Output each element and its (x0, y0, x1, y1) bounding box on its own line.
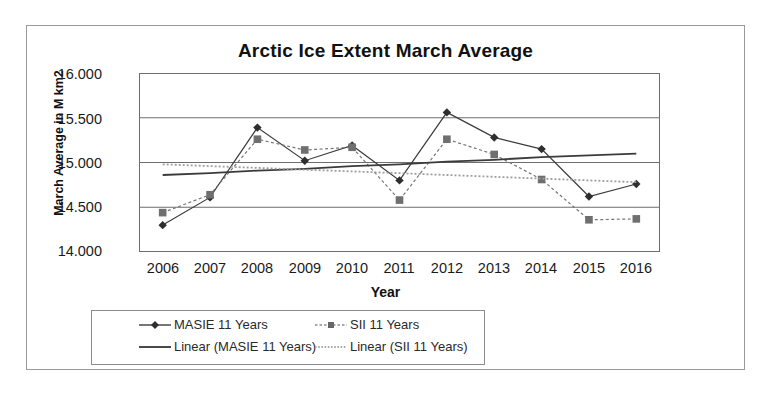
y-tick-label: 15.500 (22, 111, 102, 127)
legend-label-sii: SII 11 Years (350, 318, 419, 331)
legend-item-sii[interactable]: SII 11 Years (314, 318, 419, 331)
data-point-marker (159, 209, 167, 217)
chart-frame: Arctic Ice Extent March Average March Av… (26, 25, 745, 370)
series-line-0 (163, 112, 637, 225)
chart-legend: MASIE 11 Years SII 11 Years Linear (MASI… (91, 310, 485, 365)
data-point-marker (585, 216, 593, 224)
data-point-marker (301, 157, 309, 165)
data-point-marker (490, 151, 498, 159)
chart-title: Arctic Ice Extent March Average (27, 40, 744, 62)
data-point-marker (633, 215, 641, 223)
data-point-marker (158, 221, 166, 229)
legend-key-solid-line-icon (138, 341, 172, 353)
y-tick-label: 16.000 (22, 66, 102, 82)
legend-item-masie-trend[interactable]: Linear (MASIE 11 Years) (138, 340, 316, 353)
plot-area (139, 73, 660, 252)
legend-label-sii-trend: Linear (SII 11 Years) (350, 340, 468, 353)
x-tick-label-2016: 2016 (608, 260, 664, 276)
legend-label-masie: MASIE 11 Years (174, 318, 268, 331)
series-line-2 (163, 154, 637, 175)
data-point-marker (443, 135, 451, 143)
legend-key-dotted-line-icon (314, 341, 348, 353)
data-point-marker (254, 135, 262, 143)
plot-svg (139, 73, 660, 252)
x-axis-title: Year (27, 284, 744, 300)
data-point-marker (395, 176, 403, 184)
legend-key-square-icon (314, 319, 348, 331)
y-tick-label: 15.000 (22, 155, 102, 171)
data-point-marker (443, 108, 451, 116)
data-point-marker (396, 196, 404, 204)
legend-item-sii-trend[interactable]: Linear (SII 11 Years) (314, 340, 468, 353)
data-point-marker (301, 146, 309, 154)
data-point-marker (253, 123, 261, 131)
data-point-marker (348, 143, 356, 151)
data-point-marker (490, 133, 498, 141)
y-tick-label: 14.000 (22, 243, 102, 259)
legend-label-masie-trend: Linear (MASIE 11 Years) (174, 340, 316, 353)
data-point-marker (632, 180, 640, 188)
data-point-marker (206, 191, 214, 199)
legend-item-masie[interactable]: MASIE 11 Years (138, 318, 268, 331)
legend-key-diamond-icon (138, 319, 172, 331)
y-tick-label: 14.500 (22, 199, 102, 215)
